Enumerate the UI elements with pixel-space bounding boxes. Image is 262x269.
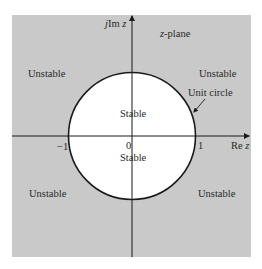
stable-label-upper: Stable xyxy=(120,108,147,119)
stable-label-lower: Stable xyxy=(120,152,147,163)
plane-label: z-plane xyxy=(159,28,191,39)
z-plane-stability-diagram: jIm z z-plane Re z −1 0 1 Unstable Unsta… xyxy=(0,0,262,269)
unstable-label-bottom-left: Unstable xyxy=(29,188,67,199)
tick-label-minus-one: −1 xyxy=(57,141,68,152)
real-axis-label: Re z xyxy=(231,140,249,151)
unstable-label-bottom-right: Unstable xyxy=(198,188,236,199)
unit-circle-annotation: Unit circle xyxy=(188,87,233,98)
unstable-label-top-right: Unstable xyxy=(199,68,237,79)
tick-label-zero: 0 xyxy=(126,140,131,151)
imaginary-axis-label: jIm z xyxy=(103,18,126,29)
tick-label-one: 1 xyxy=(198,140,203,151)
unstable-label-top-left: Unstable xyxy=(28,68,66,79)
